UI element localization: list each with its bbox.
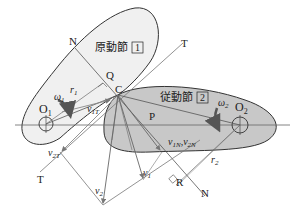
label-v2t: v2T (48, 147, 61, 160)
label-r: R (176, 176, 184, 188)
label-n-bottom: N (201, 187, 209, 199)
label-t-bottom: T (37, 173, 44, 185)
follower-number: 2 (200, 92, 205, 103)
label-t-top: T (181, 37, 188, 49)
label-p: P (149, 110, 155, 122)
label-r2: r2 (211, 154, 219, 167)
label-n-top: N (69, 35, 77, 47)
driver-label: 原動節 (95, 40, 128, 54)
label-q: Q (106, 69, 114, 81)
label-c: C (115, 83, 122, 95)
driver-number: 1 (135, 42, 140, 53)
follower-label: 従動節 (160, 90, 193, 104)
cam-velocity-diagram: 原動節 1 従動節 2 N Q C T T P R N O1 O2 ω1 ω2 … (0, 0, 294, 217)
label-v2: v2 (95, 185, 103, 198)
